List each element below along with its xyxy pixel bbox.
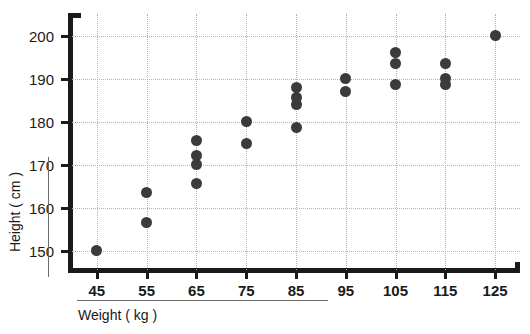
- gridline-vertical: [495, 14, 496, 272]
- y-axis-tick-label: 200: [14, 29, 54, 44]
- y-axis-title-text: Height ( cm ): [8, 152, 22, 272]
- x-axis-tick-label: 45: [73, 283, 121, 298]
- data-point: [191, 135, 202, 146]
- gridline-vertical: [346, 14, 347, 272]
- y-axis-tick: [61, 250, 69, 253]
- gridline-vertical: [97, 14, 98, 272]
- x-axis-tick-label: 85: [272, 283, 320, 298]
- y-axis-tick-label: 190: [14, 72, 54, 87]
- x-axis-tick: [96, 270, 99, 279]
- y-axis-tick: [61, 35, 69, 38]
- data-point: [490, 30, 501, 41]
- scatter-plot-screenshot: 150160170180190200 455565758595105115125…: [0, 0, 530, 334]
- gridline-vertical: [296, 14, 297, 272]
- data-point: [390, 58, 401, 69]
- data-point: [241, 116, 252, 127]
- gridline-vertical: [147, 14, 148, 272]
- y-axis-tick: [61, 78, 69, 81]
- x-axis-title-text: Weight ( kg ): [78, 308, 157, 322]
- data-point: [91, 245, 102, 256]
- x-axis-tick: [146, 270, 149, 279]
- x-axis-tick-label: 115: [421, 283, 469, 298]
- x-axis-tick: [494, 270, 497, 279]
- data-point: [340, 86, 351, 97]
- data-point: [291, 99, 302, 110]
- data-point: [440, 79, 451, 90]
- data-point: [291, 122, 302, 133]
- data-point: [191, 178, 202, 189]
- x-axis-tick: [245, 270, 248, 279]
- x-axis-tick-label: 75: [222, 283, 270, 298]
- x-axis-tick: [395, 270, 398, 279]
- x-axis-tick-label: 65: [172, 283, 220, 298]
- y-axis-tick: [61, 121, 69, 124]
- y-axis-tick: [61, 207, 69, 210]
- data-point: [191, 159, 202, 170]
- data-point: [141, 187, 152, 198]
- y-axis-title-rule: [48, 157, 49, 277]
- x-axis-tick: [195, 270, 198, 279]
- data-point: [390, 47, 401, 58]
- x-axis-tick-label: 105: [372, 283, 420, 298]
- data-point: [390, 79, 401, 90]
- x-axis-tick-label: 95: [322, 283, 370, 298]
- data-point: [291, 82, 302, 93]
- data-point: [340, 73, 351, 84]
- data-point: [440, 58, 451, 69]
- y-axis-tick: [61, 164, 69, 167]
- y-axis-tick-label: 180: [14, 115, 54, 130]
- x-axis-tick: [444, 270, 447, 279]
- gridline-vertical: [445, 14, 446, 272]
- y-axis-title: Height ( cm ): [4, 156, 26, 276]
- x-axis-tick-label: 55: [123, 283, 171, 298]
- data-point: [141, 217, 152, 228]
- x-axis-tick: [295, 270, 298, 279]
- x-axis-title-rule: [77, 300, 328, 301]
- x-axis-tick: [345, 270, 348, 279]
- plot-area: [72, 14, 520, 272]
- data-point: [241, 138, 252, 149]
- x-axis-tick-label: 125: [471, 283, 519, 298]
